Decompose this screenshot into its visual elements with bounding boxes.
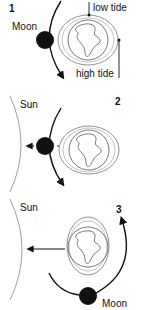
panel-2-number: 2 [115, 97, 121, 107]
sun-label: Sun [20, 100, 38, 110]
panel-3 [10, 199, 126, 305]
moon [36, 137, 54, 155]
panel-1-number: 1 [9, 4, 15, 14]
moon [36, 31, 54, 49]
tidal-bulge [67, 217, 109, 275]
moon-label: Moon [102, 299, 127, 309]
moon-orbit-left [49, 273, 79, 295]
sun-edge [10, 96, 21, 192]
sun-label: Sun [20, 203, 38, 213]
tidal-bulge [59, 126, 119, 174]
sun-edge [10, 199, 22, 300]
high-tide-label: high tide [76, 69, 114, 79]
tidal-bulge [58, 15, 118, 65]
moon-label: Moon [12, 22, 37, 32]
earth [68, 20, 108, 60]
panel-3-number: 3 [116, 205, 122, 215]
earth [69, 130, 109, 170]
moon [79, 287, 97, 305]
tides-diagram [0, 0, 143, 310]
low-tide-label: low tide [93, 3, 127, 13]
panel-2 [10, 96, 119, 192]
earth [68, 227, 108, 267]
